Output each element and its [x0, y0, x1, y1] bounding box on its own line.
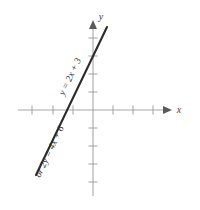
- x-axis-arrow-icon: [163, 106, 172, 114]
- line-graph-figure: x y y = 2x + 3 or 2y = 4x + 6: [0, 0, 200, 210]
- equation-primary-label: y = 2x + 3: [56, 56, 83, 98]
- x-axis-label: x: [176, 104, 182, 115]
- equation-secondary-label: or 2y = 4x + 6: [33, 124, 66, 179]
- y-axis-arrow-icon: [89, 20, 97, 29]
- y-axis-label: y: [98, 11, 104, 22]
- x-axis: x: [18, 104, 182, 115]
- coordinate-plane-svg: x y y = 2x + 3 or 2y = 4x + 6: [0, 0, 200, 210]
